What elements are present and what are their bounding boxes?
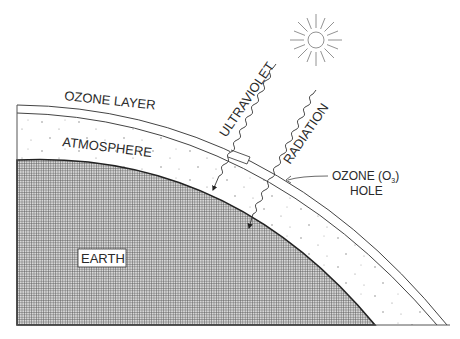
ozone-hole-label-line2: HOLE xyxy=(350,184,383,198)
ozone-hole-label: OZONE (O3) xyxy=(332,169,399,184)
sun-icon xyxy=(290,14,342,66)
ozone-hole-diagram: OZONE LAYER ATMOSPHERE ULTRAVIOLET RADIA… xyxy=(0,0,460,339)
radiation-label: RADIATION xyxy=(280,100,331,166)
earth-label: EARTH xyxy=(81,251,125,266)
ultraviolet-label: ULTRAVIOLET xyxy=(216,59,277,140)
ozone-hole-pointer xyxy=(288,176,328,180)
